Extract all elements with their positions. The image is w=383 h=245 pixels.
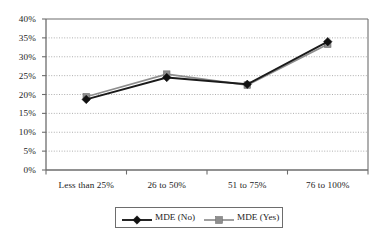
chart-legend: MDE (No) MDE (Yes) [115,207,283,228]
x-tick-label: 26 to 50% [127,181,208,190]
y-tick-label: 35% [2,34,36,43]
x-tick-label: Less than 25% [46,181,127,190]
y-tick-label: 20% [2,91,36,100]
y-tick-label: 40% [2,15,36,24]
legend-label: MDE (No) [155,213,195,222]
legend-entry-mde-yes: MDE (Yes) [204,208,279,227]
legend-marker-square-icon [204,212,234,224]
legend-label: MDE (Yes) [237,213,279,222]
legend-marker-diamond-icon [122,212,152,224]
x-tick-label: 51 to 75% [207,181,288,190]
legend-entry-mde-no: MDE (No) [122,208,195,227]
y-tick-label: 5% [2,147,36,156]
y-tick-label: 0% [2,166,36,175]
x-axis-ticks [46,170,368,175]
line-chart: 40% 35% 30% 25% 20% 15% 10% 5% 0% Less t… [0,0,383,245]
y-tick-label: 10% [2,128,36,137]
y-tick-label: 30% [2,53,36,62]
y-tick-label: 25% [2,72,36,81]
x-tick-label: 76 to 100% [288,181,369,190]
y-tick-label: 15% [2,109,36,118]
